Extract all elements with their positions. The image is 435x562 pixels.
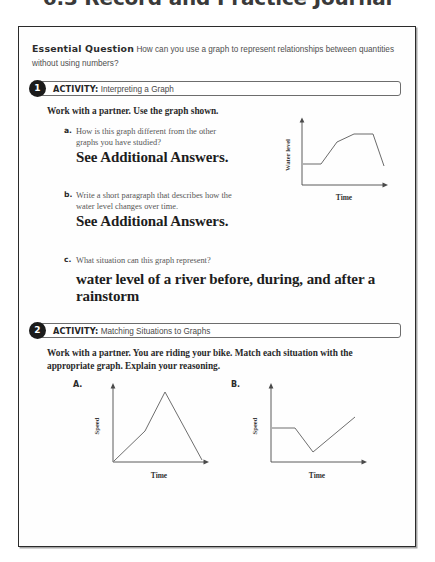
activity-1-badge: 1 xyxy=(29,80,46,97)
graph-b-svg: Speed Time xyxy=(233,379,393,484)
graph-b-x-axis-arrow xyxy=(362,460,368,465)
water-level-y-axis-label: Water level xyxy=(284,139,291,171)
water-level-data-line xyxy=(303,134,384,166)
graph-a-y-axis-label: Speed xyxy=(93,417,100,434)
question-b-letter: b. xyxy=(64,190,72,199)
graph-a-x-axis-label: Time xyxy=(151,471,168,480)
activity-2-badge: 2 xyxy=(29,322,46,339)
activity-2-heading: ACTIVITY: Matching Situations to Graphs xyxy=(53,326,210,336)
page-title: 6.3 Record and Practice Journal xyxy=(0,0,435,10)
question-b-prompt: Write a short paragraph that describes h… xyxy=(76,190,238,213)
activity-2-kicker: ACTIVITY: xyxy=(53,326,98,336)
question-b-answer: See Additional Answers. xyxy=(76,213,286,230)
question-c-answer: water level of a river before, during, a… xyxy=(76,271,396,305)
graph-a-x-axis-arrow xyxy=(204,460,210,465)
activity-2-instruction: Work with a partner. You are riding your… xyxy=(47,347,367,372)
question-a-prompt: How is this graph different from the oth… xyxy=(76,126,226,149)
graph-b-x-axis-label: Time xyxy=(309,471,326,480)
question-c-prompt: What situation can this graph represent? xyxy=(76,255,276,266)
water-level-graph: Water level Time xyxy=(274,115,394,203)
activity-1-instruction: Work with a partner. Use the graph shown… xyxy=(47,105,297,118)
activity-1-kicker: ACTIVITY: xyxy=(53,84,98,94)
essential-question-block: Essential Question How can you use a gra… xyxy=(32,42,404,70)
graph-a-y-axis-arrow xyxy=(111,383,116,389)
y-axis-arrow xyxy=(300,118,305,123)
question-c-letter: c. xyxy=(64,255,71,264)
water-level-graph-svg: Water level Time xyxy=(274,115,394,203)
graph-a-svg: Speed Time xyxy=(75,379,235,484)
graph-a-data-line xyxy=(114,392,202,461)
worksheet-page: Essential Question How can you use a gra… xyxy=(18,26,416,547)
essential-question-label: Essential Question xyxy=(32,43,134,54)
graph-b-y-axis-arrow xyxy=(269,383,274,389)
graph-b-data-line xyxy=(272,417,355,452)
question-a-answer: See Additional Answers. xyxy=(76,149,276,166)
graph-a: Speed Time xyxy=(75,379,235,484)
water-level-x-axis-label: Time xyxy=(336,193,353,202)
activity-1-title: Interpreting a Graph xyxy=(101,85,174,94)
graph-b: Speed Time xyxy=(233,379,393,484)
x-axis-arrow xyxy=(383,183,389,188)
question-a-letter: a. xyxy=(64,126,72,135)
activity-1-heading: ACTIVITY: Interpreting a Graph xyxy=(53,84,174,94)
activity-2-title: Matching Situations to Graphs xyxy=(101,327,211,336)
graph-b-y-axis-label: Speed xyxy=(251,417,258,434)
